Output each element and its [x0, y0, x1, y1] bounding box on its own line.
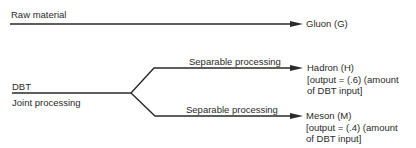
raw-material-label: Raw material [11, 9, 66, 21]
meson-output-block: Meson (M) [output = (.4) (amount of DBT … [306, 110, 398, 145]
joint-processing-label: Joint processing [12, 97, 81, 109]
upper-separable-processing-label: Separable processing [189, 56, 281, 68]
gluon-product-label: Gluon (G) [306, 18, 348, 30]
hadron-product-label: Hadron (H) [307, 62, 399, 74]
hadron-note-line2: of DBT input] [307, 85, 399, 97]
upper-branch-arrow [131, 65, 303, 93]
hadron-note-line1: [output = (.6) (amount [307, 74, 399, 86]
raw-material-arrow [10, 21, 303, 27]
meson-note-line2: of DBT input] [306, 133, 398, 145]
hadron-output-block: Hadron (H) [output = (.6) (amount of DBT… [307, 62, 399, 97]
lower-separable-processing-label: Separable processing [186, 104, 278, 116]
meson-note-line1: [output = (.4) (amount [306, 122, 398, 134]
dbt-label: DBT [12, 81, 31, 93]
meson-product-label: Meson (M) [306, 110, 398, 122]
